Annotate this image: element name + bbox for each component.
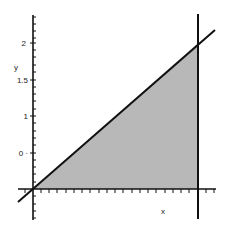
y-axis-label: y <box>14 63 18 72</box>
y-tick-label-1-5: 1.5 <box>17 76 29 85</box>
y-tick-label-0-5: 0 · <box>19 149 28 158</box>
chart: 2 1.5 1 0 · y x <box>0 0 227 230</box>
y-tick-label-2: 2 <box>22 39 27 48</box>
y-tick-label-1: 1 <box>24 112 29 121</box>
x-axis-label: x <box>161 207 165 216</box>
